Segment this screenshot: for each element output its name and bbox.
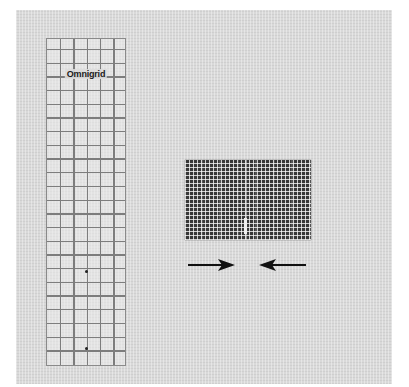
ruler-marker-dot	[85, 347, 88, 350]
quilting-ruler: Omnigrid	[46, 38, 126, 366]
ruler-marker-dot	[85, 270, 88, 273]
ruler-brand-label: Omnigrid	[65, 69, 107, 79]
fabric-piece	[185, 160, 311, 240]
arrow-right-icon	[188, 259, 235, 271]
fabric-seam-gap	[244, 218, 247, 234]
arrow-left-icon	[259, 259, 306, 271]
